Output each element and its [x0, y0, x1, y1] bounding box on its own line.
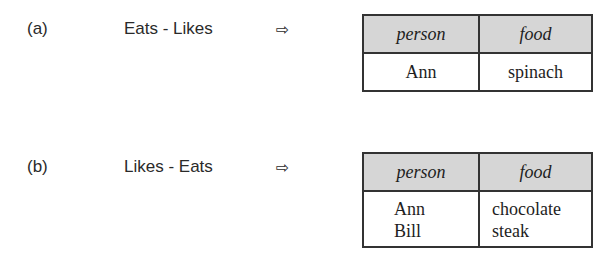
- example-label: (b): [27, 157, 48, 177]
- table-header-row: person food: [363, 15, 592, 53]
- set-difference-expression: Eats - Likes: [124, 19, 213, 39]
- result-table: person food Ann Bill chocolate steak: [362, 152, 593, 248]
- cell-person: Ann: [363, 53, 479, 91]
- result-arrow-icon: ⇨: [276, 158, 289, 177]
- table-row: Ann spinach: [363, 53, 592, 91]
- cell-person-list: Ann Bill: [363, 191, 479, 247]
- column-header-person: person: [363, 15, 479, 53]
- result-arrow-icon: ⇨: [276, 20, 289, 39]
- table-header-row: person food: [363, 153, 592, 191]
- cell-food: steak: [492, 220, 583, 242]
- cell-person: Bill: [394, 220, 470, 242]
- column-header-food: food: [479, 15, 592, 53]
- column-header-food: food: [479, 153, 592, 191]
- cell-food-list: chocolate steak: [479, 191, 592, 247]
- cell-food: chocolate: [492, 198, 583, 220]
- column-header-person: person: [363, 153, 479, 191]
- set-difference-expression: Likes - Eats: [124, 157, 213, 177]
- result-table: person food Ann spinach: [362, 14, 593, 92]
- cell-food: spinach: [479, 53, 592, 91]
- table-body-row: Ann Bill chocolate steak: [363, 191, 592, 247]
- cell-person: Ann: [394, 198, 470, 220]
- example-label: (a): [27, 19, 48, 39]
